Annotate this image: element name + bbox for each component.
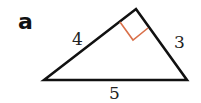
side-label-left: 4 <box>72 29 83 49</box>
triangle-diagram: a 4 3 5 <box>0 0 201 103</box>
right-angle-marker <box>120 22 148 40</box>
side-label-base: 5 <box>109 83 120 103</box>
right-triangle <box>44 9 187 80</box>
figure-label: a <box>18 9 33 34</box>
side-label-right: 3 <box>174 32 185 52</box>
